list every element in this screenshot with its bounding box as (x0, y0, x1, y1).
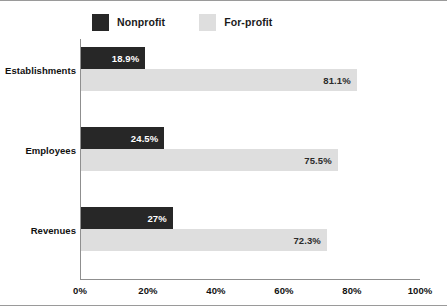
bar-value-forprofit-employees: 75.5% (304, 155, 337, 166)
bar-group-establishments: Establishments 18.9% 81.1% (81, 47, 420, 91)
chart-legend: Nonprofit For-profit (92, 12, 272, 32)
legend-swatch-nonprofit (92, 14, 109, 31)
legend-item-nonprofit[interactable]: Nonprofit (92, 14, 165, 31)
legend-label-nonprofit: Nonprofit (117, 16, 165, 28)
bar-nonprofit-establishments[interactable]: 18.9% (81, 47, 145, 69)
bar-value-nonprofit-employees: 24.5% (131, 133, 164, 144)
x-tick-5: 100% (408, 285, 433, 296)
bar-value-nonprofit-revenues: 27% (147, 213, 172, 224)
bar-forprofit-establishments[interactable]: 81.1% (81, 69, 357, 91)
legend-label-forprofit: For-profit (224, 16, 272, 28)
bar-chart: Nonprofit For-profit Establishments 18.9… (0, 0, 447, 306)
legend-item-forprofit[interactable]: For-profit (199, 14, 272, 31)
x-tick-2: 40% (206, 285, 225, 296)
x-tick-3: 60% (274, 285, 293, 296)
category-label-employees: Employees (0, 145, 76, 156)
bar-value-forprofit-revenues: 72.3% (293, 235, 326, 246)
x-axis-tick-labels: 0% 20% 40% 60% 80% 100% (80, 285, 420, 301)
bar-nonprofit-employees[interactable]: 24.5% (81, 127, 164, 149)
legend-swatch-forprofit (199, 14, 216, 31)
x-tick-0: 0% (73, 285, 87, 296)
category-label-revenues: Revenues (0, 225, 76, 236)
plot-area: Establishments 18.9% 81.1% Employees 24.… (80, 39, 420, 279)
bar-forprofit-revenues[interactable]: 72.3% (81, 229, 327, 251)
bar-nonprofit-revenues[interactable]: 27% (81, 207, 173, 229)
category-label-establishments: Establishments (0, 65, 76, 76)
bar-value-nonprofit-establishments: 18.9% (112, 53, 145, 64)
x-tick-1: 20% (138, 285, 157, 296)
bar-forprofit-employees[interactable]: 75.5% (81, 149, 338, 171)
bar-value-forprofit-establishments: 81.1% (323, 75, 356, 86)
x-tick-4: 80% (342, 285, 361, 296)
bar-group-employees: Employees 24.5% 75.5% (81, 127, 420, 171)
bar-group-revenues: Revenues 27% 72.3% (81, 207, 420, 251)
x-axis-line (80, 279, 420, 280)
